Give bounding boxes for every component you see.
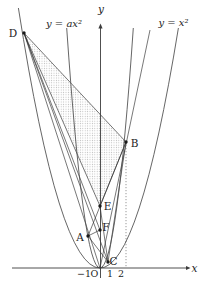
x-axis-label: x <box>192 262 198 274</box>
point-A <box>86 234 89 237</box>
y-axis-arrow-icon <box>98 24 102 29</box>
axis-tick-2: 2 <box>118 268 124 279</box>
point-label-E: E <box>104 200 112 212</box>
label-curve-x2: y = x² <box>157 17 188 28</box>
point-B <box>124 140 127 143</box>
label-curve-ax2: y = ax² <box>45 18 82 29</box>
axis-tick-1: 1 <box>107 268 113 279</box>
axis-tick-−1: −1 <box>77 268 91 279</box>
point-label-A: A <box>75 231 84 243</box>
x-axis-arrow-icon <box>186 266 191 270</box>
point-label-F: F <box>102 221 109 233</box>
point-D <box>22 31 25 34</box>
diagram-svg: DBEFAC −1O12 y = ax² y = x² y x <box>0 0 212 304</box>
point-F <box>98 228 101 231</box>
y-axis-label: y <box>97 3 105 15</box>
point-label-D: D <box>9 27 17 39</box>
axis-tick-O: O <box>91 268 99 279</box>
point-label-C: C <box>109 255 117 267</box>
point-E <box>98 204 101 207</box>
point-label-B: B <box>131 137 139 149</box>
math-figure: DBEFAC −1O12 y = ax² y = x² y x <box>0 0 212 304</box>
